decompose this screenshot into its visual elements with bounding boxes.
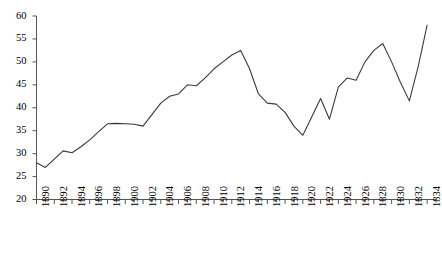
chart-axes: [37, 16, 437, 200]
x-axis-tick-label: 1908: [201, 186, 212, 207]
x-axis-tick-label: 1894: [77, 186, 88, 207]
x-axis-tick-label: 1898: [112, 186, 123, 207]
x-axis-tick-label: 1904: [165, 186, 176, 207]
y-axis-tick-label: 20: [3, 194, 27, 205]
x-axis-tick-label: 1828: [378, 186, 389, 207]
x-axis-tick-label: 1910: [219, 186, 230, 207]
x-axis-tick-label: 1918: [290, 186, 301, 207]
y-axis-tick-label: 60: [3, 11, 27, 22]
x-axis-tick-label: 1900: [130, 186, 141, 207]
x-axis-tick-label: 1914: [254, 186, 265, 207]
line-chart: 202530354045505560 189018921894189618981…: [0, 0, 442, 259]
x-axis-tick-label: 1830: [396, 186, 407, 207]
y-axis-tick-label: 50: [3, 56, 27, 67]
x-axis-tick-label: 1924: [343, 186, 354, 207]
chart-plot-area: [0, 0, 442, 259]
x-axis-tick-label: 1832: [414, 186, 425, 207]
y-axis-tick-label: 35: [3, 125, 27, 136]
chart-series-group: [37, 25, 428, 167]
x-axis-tick-label: 1834: [432, 186, 442, 207]
x-axis-tick-label: 1890: [41, 186, 52, 207]
y-axis-tick-label: 45: [3, 79, 27, 90]
y-axis-tick-label: 40: [3, 102, 27, 113]
y-axis-tick-label: 25: [3, 171, 27, 182]
x-axis-tick-label: 1922: [325, 186, 336, 207]
x-axis-tick-label: 1912: [236, 186, 247, 207]
x-axis-tick-label: 1906: [183, 186, 194, 207]
y-axis-tick-label: 30: [3, 148, 27, 159]
x-axis-tick-label: 1916: [272, 186, 283, 207]
x-axis-tick-label: 1902: [148, 186, 159, 207]
x-axis-tick-label: 1920: [307, 186, 318, 207]
y-axis-tick-label: 55: [3, 33, 27, 44]
x-axis-tick-label: 1892: [59, 186, 70, 207]
x-axis-tick-label: 1926: [361, 186, 372, 207]
chart-line-series-1: [37, 25, 428, 167]
x-axis-tick-label: 1896: [94, 186, 105, 207]
y-axis-ticks: [33, 16, 37, 200]
